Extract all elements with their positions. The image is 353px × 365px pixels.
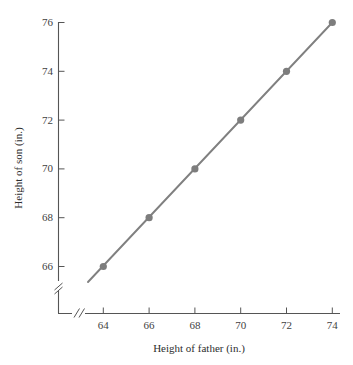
data-point xyxy=(191,165,198,172)
x-axis-tick-labels: 64 66 68 70 72 74 xyxy=(98,319,338,331)
x-tick-label: 72 xyxy=(281,319,292,331)
y-tick-label: 68 xyxy=(42,211,54,223)
y-tick-label: 66 xyxy=(42,260,54,272)
x-tick-label: 70 xyxy=(235,319,247,331)
y-axis-ticks xyxy=(59,23,65,267)
data-series-line xyxy=(88,23,332,283)
y-tick-label: 70 xyxy=(42,162,54,174)
y-tick-label: 74 xyxy=(42,65,54,77)
x-tick-label: 64 xyxy=(98,319,110,331)
data-point xyxy=(283,68,290,75)
x-tick-label: 66 xyxy=(144,319,156,331)
y-tick-label: 76 xyxy=(42,16,54,28)
trend-line xyxy=(88,23,332,283)
x-tick-label: 68 xyxy=(189,319,201,331)
data-point xyxy=(100,263,107,270)
x-tick-label: 74 xyxy=(327,319,339,331)
y-axis-tick-labels: 76 74 72 70 68 66 xyxy=(42,16,54,272)
data-point xyxy=(237,117,244,124)
data-point xyxy=(329,19,336,26)
scatter-line-chart: 76 74 72 70 68 66 64 66 68 70 72 74 xyxy=(0,0,353,365)
y-axis-title: Height of son (in.) xyxy=(12,127,25,209)
x-axis-break-icon xyxy=(72,309,85,319)
data-point xyxy=(146,214,153,221)
chart-plot-area: 76 74 72 70 68 66 64 66 68 70 72 74 xyxy=(0,0,353,365)
x-axis-ticks xyxy=(103,308,332,314)
x-axis-title: Height of father (in.) xyxy=(153,342,245,355)
y-tick-label: 72 xyxy=(42,114,53,126)
